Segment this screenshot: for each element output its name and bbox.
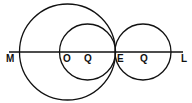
geometry-diagram: M O Q E Q L [0, 0, 192, 103]
label-q-right: Q [140, 53, 148, 64]
label-e: E [117, 53, 124, 64]
label-l: L [181, 53, 187, 64]
label-q-left: Q [84, 53, 92, 64]
label-o: O [63, 53, 71, 64]
label-m: M [6, 53, 14, 64]
